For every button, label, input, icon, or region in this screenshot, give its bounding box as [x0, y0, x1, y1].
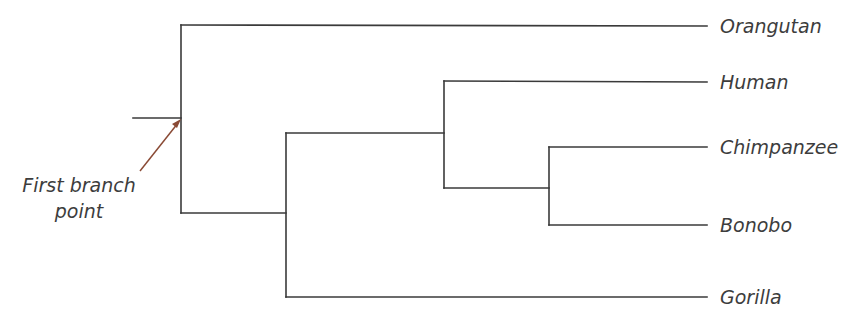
taxon-label-orangutan: Orangutan [720, 15, 822, 37]
taxon-label-human: Human [720, 71, 789, 93]
arrowhead-icon [172, 119, 181, 128]
taxon-label-gorilla: Gorilla [720, 286, 782, 308]
taxon-label-chimpanzee: Chimpanzee [720, 136, 838, 158]
annotation-line-2: point [14, 198, 144, 224]
taxon-label-bonobo: Bonobo [720, 214, 792, 236]
annotation-label: First branch point [14, 172, 144, 224]
annotation-line-1: First branch [14, 172, 144, 198]
phylogenetic-tree: Orangutan Human Chimpanzee Bonobo Gorill… [0, 0, 855, 325]
branch-orangutan [181, 25, 707, 26]
annotation-arrow [140, 123, 178, 171]
branch-human [444, 81, 707, 82]
